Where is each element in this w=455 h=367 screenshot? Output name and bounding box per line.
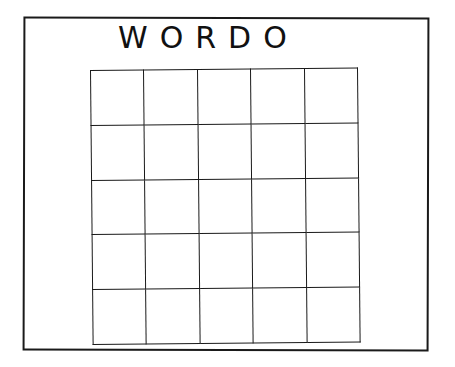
grid-cell[interactable] (252, 233, 306, 288)
grid-cell[interactable] (305, 123, 359, 178)
card-title: WORDO (118, 20, 288, 55)
grid-cell[interactable] (144, 124, 198, 179)
grid-cell[interactable] (304, 68, 358, 123)
grid-cell[interactable] (251, 68, 305, 123)
grid-table (90, 67, 361, 345)
grid-cell[interactable] (144, 69, 198, 124)
grid-cell[interactable] (306, 287, 360, 342)
wordo-grid (90, 67, 361, 345)
grid-cell[interactable] (305, 178, 359, 233)
grid-cell[interactable] (199, 233, 253, 288)
grid-cell[interactable] (198, 179, 252, 234)
grid-cell[interactable] (146, 289, 200, 344)
grid-cell[interactable] (92, 234, 146, 289)
grid-cell[interactable] (199, 288, 253, 343)
grid-cell[interactable] (91, 70, 145, 125)
grid-row (92, 232, 360, 289)
grid-cell[interactable] (251, 123, 305, 178)
grid-cell[interactable] (91, 125, 145, 180)
grid-row (91, 68, 359, 125)
grid-cell[interactable] (145, 179, 199, 234)
grid-cell[interactable] (145, 234, 199, 289)
grid-cell[interactable] (306, 232, 360, 287)
grid-row (91, 123, 359, 180)
grid-cell[interactable] (93, 289, 147, 344)
grid-cell[interactable] (252, 178, 306, 233)
grid-cell[interactable] (92, 180, 146, 235)
grid-cell[interactable] (198, 124, 252, 179)
grid-row (92, 178, 360, 235)
grid-row (93, 287, 361, 344)
grid-cell[interactable] (197, 69, 251, 124)
grid-cell[interactable] (253, 288, 307, 343)
